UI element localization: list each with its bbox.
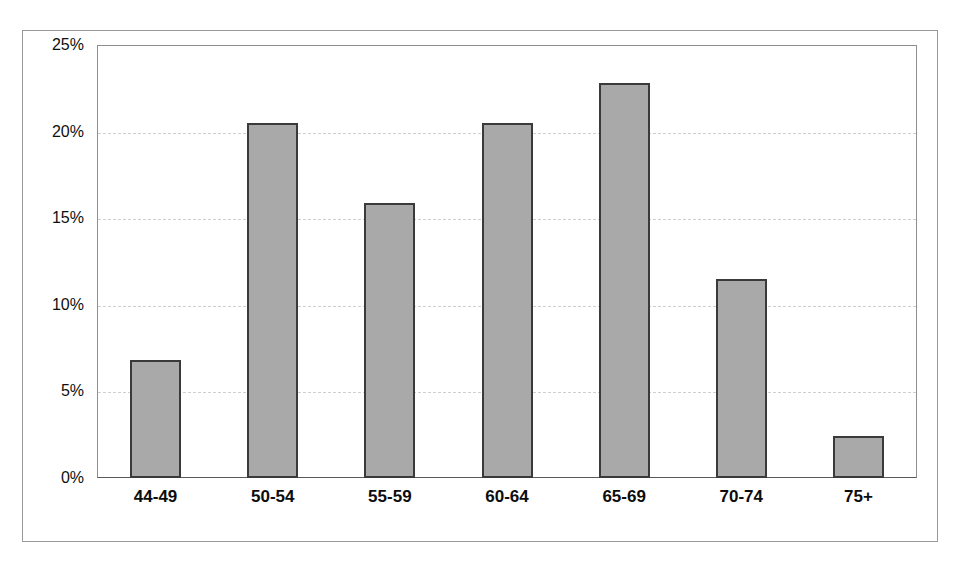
x-axis-tick-label: 60-64 — [448, 487, 565, 507]
x-axis-tick-label: 55-59 — [331, 487, 448, 507]
bar — [599, 83, 650, 478]
chart-figure: 0%5%10%15%20%25% 44-4950-5455-5960-6465-… — [0, 0, 961, 566]
bar-series — [97, 45, 917, 478]
x-axis-tick-labels: 44-4950-5455-5960-6465-6970-7475+ — [97, 487, 917, 521]
y-axis-tick-label: 20% — [22, 123, 84, 141]
y-axis-tick-label: 15% — [22, 209, 84, 227]
bar — [716, 279, 767, 478]
x-axis-tick-label: 65-69 — [566, 487, 683, 507]
bar — [364, 203, 415, 478]
bar — [833, 436, 884, 478]
x-axis-tick-label: 50-54 — [214, 487, 331, 507]
x-axis-tick-label: 75+ — [800, 487, 917, 507]
bar — [482, 123, 533, 478]
y-axis-tick-label: 5% — [22, 382, 84, 400]
y-axis-tick-label: 0% — [22, 469, 84, 487]
bar — [130, 360, 181, 478]
bar — [247, 123, 298, 478]
y-axis-tick-label: 25% — [22, 36, 84, 54]
y-axis-tick-label: 10% — [22, 296, 84, 314]
x-axis-tick-label: 44-49 — [97, 487, 214, 507]
x-axis-tick-label: 70-74 — [683, 487, 800, 507]
y-axis-tick-labels: 0%5%10%15%20%25% — [22, 45, 84, 478]
